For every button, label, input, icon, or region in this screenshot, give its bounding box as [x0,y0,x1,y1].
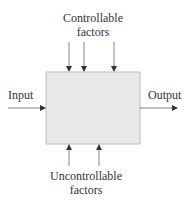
output-label: Output [148,88,182,102]
uncontrollable-factors-label-line2: factors [70,183,103,197]
controllable-factors-label-line2: factors [77,25,110,39]
controllable-factors-label-line1: Controllable [63,11,123,25]
uncontrollable-factors-label-line1: Uncontrollable [50,169,122,183]
process-diagram: Controllable factors Input Output Uncont… [0,0,191,205]
process-box [46,72,140,144]
input-label: Input [8,88,34,102]
